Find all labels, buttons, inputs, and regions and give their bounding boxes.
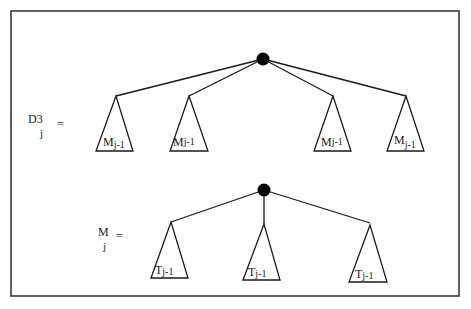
root-node [257,53,270,66]
m-subscript: j [102,240,106,252]
d3-label: D3 [28,112,43,126]
subtree-label: Tj-1 [155,263,173,277]
equals-sign: = [116,229,123,243]
tree-diagram: Mj-1 Mj-1 Mj-1 Mj-1 D3 j = Tj-1 Tj-1 Tj-… [0,0,471,309]
subtree-label: Tj-1 [355,267,373,281]
subtree-label: Tj-1 [248,265,266,279]
equals-sign: = [57,117,64,131]
subtree-label: Mj-1 [321,135,343,149]
subtree-label: Mj-1 [173,135,195,149]
root-node [258,184,271,197]
d3-subscript: j [39,127,43,139]
diagram-frame [11,11,459,296]
m-label: M [98,225,109,239]
